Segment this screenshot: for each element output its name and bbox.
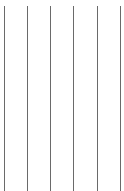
vertical-line-5 [97, 6, 98, 191]
vertical-line-4 [73, 6, 74, 191]
vertical-line-2 [27, 6, 28, 191]
vertical-line-3 [50, 6, 51, 191]
vertical-line-6 [120, 6, 121, 191]
vertical-line-1 [4, 6, 5, 191]
